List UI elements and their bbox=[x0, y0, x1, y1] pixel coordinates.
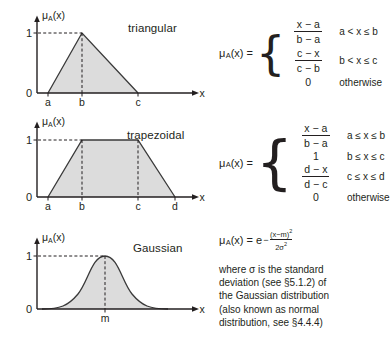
triangular-x-axis-label: x bbox=[199, 87, 205, 99]
triangular-title: triangular bbox=[128, 22, 177, 34]
triangular-case-condition: a < x ≤ b bbox=[329, 26, 378, 37]
triangular-y-axis-arrow bbox=[34, 16, 40, 23]
trapezoidal-case-fraction: x − a b − a bbox=[302, 122, 330, 149]
gaussian-lhs-sub: A bbox=[226, 238, 231, 247]
gaussian-exponent-numerator: (x−m)2 bbox=[270, 228, 292, 239]
triangular-cases: x − a b − a a < x ≤ b c − x c − b bbox=[287, 18, 382, 88]
gaussian-x-axis-label: x bbox=[199, 303, 205, 315]
trapezoidal-lhs-tail: (x) = bbox=[231, 157, 253, 169]
gaussian-note-line: distribution, see §4.4.4) bbox=[219, 316, 353, 329]
triangular-case-row: x − a b − a a < x ≤ b bbox=[287, 18, 382, 45]
triangular-case-fraction: x − a b − a bbox=[294, 18, 322, 45]
triangular-section: μA(x) x 1 0 a b c triangular μA(x) = { x… bbox=[0, 0, 353, 110]
trapezoidal-xtick-label-d: d bbox=[172, 200, 178, 212]
triangular-lhs-sub: A bbox=[226, 51, 231, 60]
triangular-y-axis-label: μA(x) bbox=[42, 9, 65, 22]
gaussian-x-axis-arrow bbox=[192, 306, 199, 312]
cases-brace-icon: { bbox=[256, 30, 285, 76]
trapezoidal-formula: μA(x) = { x − a b − a a ≤ x ≤ b 1 bbox=[219, 122, 390, 203]
gaussian-exponent-minus: − bbox=[263, 235, 268, 245]
trapezoidal-case-condition: otherwise bbox=[337, 192, 390, 203]
gaussian-svg: μA(x) x 1 0 m bbox=[0, 222, 212, 341]
trapezoidal-x-axis-label: x bbox=[199, 191, 205, 203]
gaussian-note-line: where σ is the standard bbox=[219, 263, 353, 276]
trapezoidal-cases: x − a b − a a ≤ x ≤ b 1 b ≤ x ≤ c bbox=[295, 122, 390, 203]
triangular-xtick-label-b: b bbox=[79, 96, 85, 108]
trapezoidal-case-condition: a ≤ x ≤ b bbox=[337, 130, 385, 141]
trapezoidal-lhs-mu: μ bbox=[219, 157, 225, 169]
triangular-lhs-tail: (x) = bbox=[231, 47, 253, 59]
trapezoidal-plot: μA(x) x 1 0 a b c d bbox=[0, 110, 212, 222]
triangular-formula: μA(x) = { x − a b − a a < x ≤ b bbox=[219, 18, 382, 88]
trapezoidal-title: trapezoidal bbox=[127, 129, 184, 141]
triangular-x-axis-arrow bbox=[192, 90, 199, 96]
triangular-ytick-label-one: 1 bbox=[26, 27, 32, 39]
fraction-bar bbox=[295, 60, 322, 61]
trapezoidal-x-axis-arrow bbox=[192, 194, 199, 200]
triangular-shape-fill bbox=[48, 33, 138, 93]
gaussian-y-axis-label: μA(x) bbox=[42, 231, 65, 244]
gaussian-title: Gaussian bbox=[133, 242, 182, 254]
trapezoidal-y-axis-label: μA(x) bbox=[42, 115, 65, 128]
fraction-bar bbox=[302, 176, 329, 177]
trapezoidal-xtick-label-c: c bbox=[135, 200, 140, 212]
gaussian-plot: μA(x) x 1 0 m bbox=[0, 222, 212, 341]
trapezoidal-lhs-sub: A bbox=[226, 160, 231, 169]
gaussian-note-line: the Gaussian distribution bbox=[219, 289, 353, 302]
triangular-svg: μA(x) x 1 0 a b c bbox=[0, 0, 212, 110]
trapezoidal-ytick-label-zero: 0 bbox=[26, 191, 32, 203]
gaussian-xtick-label-m: m bbox=[101, 312, 110, 324]
gaussian-ytick-label-one: 1 bbox=[26, 250, 32, 262]
trapezoidal-ytick-label-one: 1 bbox=[26, 134, 32, 146]
triangular-case-row: 0 otherwise bbox=[287, 76, 382, 88]
trapezoidal-case-fraction: d − x d − c bbox=[302, 163, 329, 190]
fraction-bar bbox=[294, 31, 322, 32]
triangular-formula-lhs: μA(x) = { x − a b − a a < x ≤ b bbox=[219, 18, 382, 88]
trapezoidal-case-value: 1 bbox=[313, 150, 319, 162]
trapezoidal-svg: μA(x) x 1 0 a b c d bbox=[0, 110, 212, 222]
trapezoidal-y-axis-arrow bbox=[34, 122, 40, 129]
triangular-case-condition: b < x ≤ c bbox=[329, 55, 377, 66]
fraction-bar bbox=[302, 135, 330, 136]
trapezoidal-xtick-label-a: a bbox=[45, 200, 51, 212]
trapezoidal-xtick-label-b: b bbox=[79, 200, 85, 212]
trapezoidal-case-row: 0 otherwise bbox=[295, 191, 390, 203]
trapezoidal-case-condition: c ≤ x ≤ d bbox=[337, 171, 385, 182]
triangular-case-value: 0 bbox=[305, 76, 311, 88]
gaussian-formula-lhs: μA(x) = e bbox=[219, 234, 262, 246]
gaussian-lhs-tail: (x) = e bbox=[231, 234, 262, 246]
gaussian-note-line: (also known as normal bbox=[219, 303, 353, 316]
trapezoidal-formula-lhs: μA(x) = { x − a b − a a ≤ x ≤ b 1 bbox=[219, 122, 390, 203]
triangular-lhs-mu: μ bbox=[219, 47, 225, 59]
gaussian-note: where σ is the standard deviation (see §… bbox=[219, 263, 353, 329]
triangular-xtick-label-a: a bbox=[45, 96, 51, 108]
gaussian-ytick-label-zero: 0 bbox=[26, 303, 32, 315]
triangular-case-row: c − x c − b b < x ≤ c bbox=[287, 47, 382, 74]
trapezoidal-case-row: 1 b ≤ x ≤ c bbox=[295, 150, 390, 162]
trapezoidal-case-row: d − x d − c c ≤ x ≤ d bbox=[295, 163, 390, 190]
gaussian-exponent: − (x−m)2 2σ2 bbox=[263, 228, 292, 252]
gaussian-formula: μA(x) = e − (x−m)2 2σ2 bbox=[219, 234, 292, 258]
trapezoidal-section: μA(x) x 1 0 a b c d trapezoidal μA(x) = … bbox=[0, 110, 353, 222]
triangular-ytick-label-zero: 0 bbox=[26, 87, 32, 99]
triangular-plot: μA(x) x 1 0 a b c bbox=[0, 0, 212, 110]
gaussian-exponent-denominator: 2σ2 bbox=[275, 241, 287, 252]
trapezoidal-case-condition: b ≤ x ≤ c bbox=[337, 151, 385, 162]
triangular-xtick-label-c: c bbox=[135, 96, 140, 108]
triangular-case-condition: otherwise bbox=[329, 77, 382, 88]
triangular-case-fraction: c − x c − b bbox=[295, 47, 322, 74]
gaussian-note-line: deviation (see §5.1.2) of bbox=[219, 276, 353, 289]
trapezoidal-case-row: x − a b − a a ≤ x ≤ b bbox=[295, 122, 390, 149]
gaussian-y-axis-arrow bbox=[34, 238, 40, 245]
gaussian-lhs-mu: μ bbox=[219, 234, 225, 246]
cases-brace-icon: { bbox=[256, 134, 293, 192]
trapezoidal-case-value: 0 bbox=[313, 191, 319, 203]
